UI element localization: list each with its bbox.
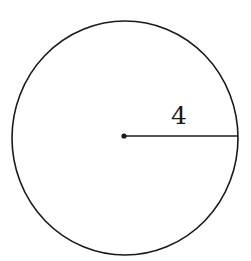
center-point [121, 133, 126, 138]
radius-label: 4 [171, 101, 187, 130]
circle-diagram: 4 [0, 0, 251, 261]
